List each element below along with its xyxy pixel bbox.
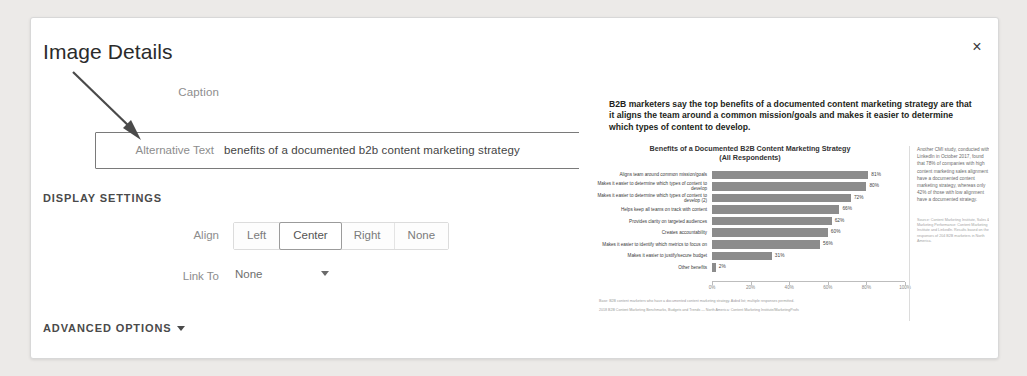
chart-x-axis: 0%20%40%60%80%100% [712, 281, 905, 294]
side-note-source: Source: Content Marketing Institute, Sal… [917, 218, 989, 245]
chart-bar [712, 228, 828, 237]
caption-field-row: Caption [43, 80, 573, 110]
link-to-row: Link To None [43, 264, 513, 290]
chevron-down-icon [321, 271, 329, 276]
chart-bar-row: Provides clarity on targeted audiences62… [595, 215, 905, 227]
footnote-1: Base: B2B content marketers who have a d… [599, 299, 889, 304]
display-settings-heading: DISPLAY SETTINGS [43, 192, 162, 204]
chart-bar-row: Makes it easier to determine which types… [595, 192, 905, 204]
chart-bar [712, 171, 868, 180]
chart-x-tick-label: 0% [709, 285, 716, 290]
preview-side-note: Another CMI study, conducted with Linked… [909, 146, 989, 321]
chart-x-tick-label: 20% [746, 285, 755, 290]
chart-bar-label: Makes it easier to determine which types… [595, 193, 712, 203]
chart-bar-row: Creates accountability60% [595, 227, 905, 239]
align-option-none[interactable]: None [395, 223, 449, 249]
align-option-left[interactable]: Left [234, 223, 280, 249]
chart-plot-area: Aligns team around common mission/goals8… [595, 169, 905, 281]
chart-bar-label: Makes it easier to determine which types… [595, 181, 712, 191]
chart-x-tick-label: 40% [785, 285, 794, 290]
chart-bar-value: 62% [835, 218, 845, 223]
chart-bar-label: Provides clarity on targeted audiences [595, 219, 712, 224]
link-to-select[interactable]: None [233, 264, 343, 286]
footnote-2: 2018 B2B Content Marketing Benchmarks, B… [599, 308, 889, 313]
chart-title: Benefits of a Documented B2B Content Mar… [595, 142, 905, 153]
chart-bar-track: 2% [712, 263, 905, 272]
chart-bar-track: 72% [712, 194, 905, 203]
chart-bar-value: 2% [719, 264, 726, 269]
chart-bar-track: 66% [712, 205, 905, 214]
chevron-down-icon [177, 326, 185, 331]
link-to-value: None [235, 268, 263, 280]
chart-bar-track: 81% [712, 171, 905, 180]
chart-bar-label: Other benefits [595, 265, 712, 270]
page-title: Image Details [43, 40, 173, 64]
chart-bar-track: 60% [712, 228, 905, 237]
chart-x-tick-label: 80% [862, 285, 871, 290]
alternative-text-field[interactable]: Alternative Text benefits of a documente… [95, 132, 583, 169]
image-form: Caption Alternative Text benefits of a d… [43, 80, 573, 110]
align-button-group[interactable]: Left Center Right None [233, 222, 449, 250]
chart-footnotes: Base: B2B content marketers who have a d… [599, 299, 889, 317]
chart-x-tick-label: 60% [823, 285, 832, 290]
chart-bar-value: 31% [775, 253, 785, 258]
link-to-label: Link To [143, 270, 219, 282]
chart-bar [712, 205, 839, 214]
chart-bar-value: 60% [831, 229, 841, 234]
advanced-options-toggle[interactable]: ADVANCED OPTIONS [43, 322, 185, 334]
align-option-center[interactable]: Center [279, 222, 342, 250]
close-icon[interactable]: × [966, 36, 988, 58]
chart-bar-label: Aligns team around common mission/goals [595, 172, 712, 177]
chart-bar [712, 194, 851, 203]
align-option-right[interactable]: Right [341, 223, 395, 249]
chart-bar-label: Makes it easier to identify which metric… [595, 242, 712, 247]
side-note-text: Another CMI study, conducted with Linked… [917, 146, 989, 204]
chart-bar [712, 182, 866, 191]
chart-bar-value: 66% [842, 206, 852, 211]
chart-bar-value: 72% [854, 195, 864, 200]
chart-bar-row: Aligns team around common mission/goals8… [595, 169, 905, 181]
chart-bar-label: Makes it easier to justify/secure budget [595, 253, 712, 258]
chart-subtitle: (All Respondents) [595, 153, 905, 162]
alternative-text-input[interactable]: benefits of a documented b2b content mar… [224, 144, 520, 156]
align-label: Align [143, 229, 219, 241]
chart-bar-row: Other benefits2% [595, 262, 905, 274]
chart-bar-track: 56% [712, 240, 905, 249]
chart-bar-row: Makes it easier to justify/secure budget… [595, 250, 905, 262]
chart-bar-label: Creates accountability [595, 230, 712, 235]
chart-bar [712, 263, 716, 272]
chart-bar-row: Makes it easier to identify which metric… [595, 239, 905, 251]
chart-bar-value: 80% [869, 183, 879, 188]
chart-bar [712, 217, 832, 226]
chart-bar-row: Helps keep all teams on track with conte… [595, 204, 905, 216]
image-details-modal: Image Details × Caption Alternative Text… [30, 17, 999, 359]
chart-bar-track: 31% [712, 252, 905, 261]
preview-lead-text: B2B marketers say the top benefits of a … [609, 99, 977, 133]
chart-bar-label: Helps keep all teams on track with conte… [595, 207, 712, 212]
chart-bar-track: 62% [712, 217, 905, 226]
caption-label: Caption [101, 86, 219, 98]
chart-bar-track: 80% [712, 182, 905, 191]
chart-bar [712, 252, 772, 261]
chart-bar-value: 56% [823, 241, 833, 246]
image-preview: B2B marketers say the top benefits of a … [579, 74, 989, 342]
chart-bar [712, 240, 820, 249]
alternative-text-label: Alternative Text [102, 144, 214, 156]
advanced-options-label: ADVANCED OPTIONS [43, 322, 171, 334]
align-row: Align Left Center Right None [43, 222, 513, 250]
chart-bar-value: 81% [871, 172, 881, 177]
chart-bar-row: Makes it easier to determine which types… [595, 181, 905, 193]
page-background: Image Details × Caption Alternative Text… [0, 0, 1027, 376]
